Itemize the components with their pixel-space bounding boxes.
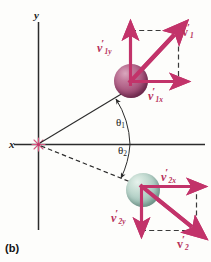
- lower-ball: [126, 173, 160, 207]
- vector-label-v1-subscript: 1: [190, 31, 194, 40]
- vector-label-v1x: v′1x: [148, 86, 163, 103]
- angle-label-theta2: θ2: [118, 145, 127, 158]
- vector-label-v1: v′1: [182, 22, 194, 39]
- panel-label: (b): [5, 243, 19, 254]
- vector-label-v2y-subscript: 2y: [118, 217, 125, 226]
- collision-point-burst: [32, 138, 45, 151]
- vector-label-v2x: v′2x: [161, 167, 176, 184]
- collision-vector-diagram: y x v′1 v′1y v′1x v′2x v′2y v′2 θ1 θ2 (b…: [0, 0, 211, 262]
- upper-ball: [114, 64, 148, 98]
- y-axis-label: y: [34, 10, 39, 21]
- x-axis-label: x: [9, 139, 15, 150]
- vector-label-v1x-subscript: 1x: [155, 95, 163, 104]
- angle-label-theta2-subscript: 2: [123, 149, 127, 158]
- vector-label-v1y: v′1y: [97, 38, 112, 55]
- angle-label-theta1: θ1: [116, 117, 125, 130]
- vector-label-v2-subscript: 2: [185, 243, 189, 252]
- vector-label-v2x-subscript: 2x: [168, 176, 176, 185]
- angle-label-theta1-subscript: 1: [121, 121, 125, 130]
- vector-label-v2: v′2: [177, 234, 189, 251]
- vector-label-v2y: v′2y: [111, 208, 126, 225]
- vector-label-v1y-subscript: 1y: [104, 47, 111, 56]
- trajectory-line-1: [40, 93, 123, 143]
